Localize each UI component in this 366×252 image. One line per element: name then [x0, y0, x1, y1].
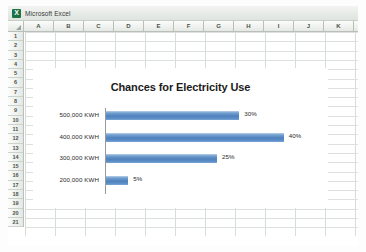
row-header-5[interactable]: 5 — [8, 69, 23, 78]
row-header-14[interactable]: 14 — [8, 153, 23, 162]
chart-bar[interactable] — [106, 133, 284, 142]
bar-value-label: 30% — [244, 110, 256, 117]
excel-app-icon — [12, 9, 21, 18]
column-header-e[interactable]: E — [144, 21, 174, 31]
chart-title: Chances for Electricity Use — [33, 81, 328, 93]
chart-bar[interactable] — [106, 111, 239, 120]
column-header-h[interactable]: H — [234, 21, 264, 31]
grid-horizontal-line — [25, 51, 358, 52]
column-header-i[interactable]: I — [264, 21, 294, 31]
row-header-2[interactable]: 2 — [8, 41, 23, 50]
column-header-a[interactable]: A — [24, 21, 54, 31]
grid-horizontal-line — [25, 218, 358, 219]
window-title: Microsoft Excel — [25, 10, 71, 17]
chart-bar-row: 400,000 KWH40% — [33, 128, 328, 150]
screenshot-page: Microsoft Excel ABCDEFGHIJK 123456789101… — [0, 0, 366, 252]
chart-bar[interactable] — [106, 154, 217, 163]
row-header-7[interactable]: 7 — [8, 88, 23, 97]
category-label: 300,000 KWH — [33, 154, 99, 161]
bar-value-label: 25% — [222, 153, 234, 160]
bar-value-label: 40% — [289, 132, 301, 139]
row-header-17[interactable]: 17 — [8, 181, 23, 190]
chart-bar-row: 300,000 KWH25% — [33, 149, 328, 171]
row-header-15[interactable]: 15 — [8, 162, 23, 171]
chart-bar[interactable] — [106, 176, 128, 185]
category-label: 400,000 KWH — [33, 133, 99, 140]
row-header-3[interactable]: 3 — [8, 51, 23, 60]
column-header-c[interactable]: C — [84, 21, 114, 31]
row-header-9[interactable]: 9 — [8, 106, 23, 115]
row-header-21[interactable]: 21 — [8, 218, 23, 227]
title-bar: Microsoft Excel — [8, 6, 358, 21]
category-label: 500,000 KWH — [33, 111, 99, 118]
column-header-b[interactable]: B — [54, 21, 84, 31]
spreadsheet-grid: ABCDEFGHIJK 1234567891011121314151617181… — [8, 21, 358, 246]
row-header-11[interactable]: 11 — [8, 125, 23, 134]
row-header-16[interactable]: 16 — [8, 171, 23, 180]
chart-bar-row: 500,000 KWH30% — [33, 106, 328, 128]
category-label: 200,000 KWH — [33, 176, 99, 183]
column-header-j[interactable]: J — [294, 21, 324, 31]
row-header-13[interactable]: 13 — [8, 144, 23, 153]
column-header-d[interactable]: D — [114, 21, 144, 31]
column-header-row: ABCDEFGHIJK — [8, 21, 358, 32]
column-header-f[interactable]: F — [174, 21, 204, 31]
grid-horizontal-line — [25, 32, 358, 33]
select-all-corner-icon[interactable] — [8, 21, 24, 31]
row-header-12[interactable]: 12 — [8, 134, 23, 143]
bar-value-label: 5% — [133, 175, 142, 182]
chart-plot-area: 500,000 KWH30%400,000 KWH40%300,000 KWH2… — [33, 106, 328, 196]
row-header-20[interactable]: 20 — [8, 209, 23, 218]
excel-window: Microsoft Excel ABCDEFGHIJK 123456789101… — [8, 6, 358, 246]
row-header-1[interactable]: 1 — [8, 32, 23, 41]
row-header-6[interactable]: 6 — [8, 78, 23, 87]
grid-horizontal-line — [25, 209, 358, 210]
row-header-8[interactable]: 8 — [8, 97, 23, 106]
column-header-g[interactable]: G — [204, 21, 234, 31]
chart-object[interactable]: Chances for Electricity Use 500,000 KWH3… — [33, 68, 328, 208]
grid-horizontal-line — [25, 227, 358, 228]
row-header-18[interactable]: 18 — [8, 190, 23, 199]
grid-horizontal-line — [25, 41, 358, 42]
chart-bar-row: 200,000 KWH5% — [33, 171, 328, 193]
row-header-4[interactable]: 4 — [8, 60, 23, 69]
grid-horizontal-line — [25, 60, 358, 61]
column-header-k[interactable]: K — [324, 21, 354, 31]
row-header-19[interactable]: 19 — [8, 199, 23, 208]
row-header-10[interactable]: 10 — [8, 116, 23, 125]
row-header-column: 123456789101112131415161718192021 — [8, 32, 24, 227]
